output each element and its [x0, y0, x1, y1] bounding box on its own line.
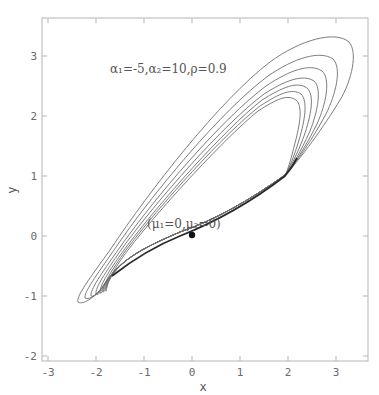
y-tick-labels: -2 -1 0 1 2 3 — [24, 50, 37, 363]
parameters-annotation: α₁=-5,α₂=10,ρ=0.9 — [110, 62, 227, 76]
svg-text:-2: -2 — [89, 366, 102, 379]
contour-level-7 — [106, 97, 300, 291]
contour-level-3 — [91, 68, 327, 297]
contour-lines — [78, 37, 354, 303]
svg-text:1: 1 — [237, 366, 244, 379]
contour-level-6 — [103, 91, 305, 292]
svg-text:1: 1 — [30, 170, 37, 183]
mean-annotation: (μ₁=0,μ₂=0) — [147, 217, 221, 231]
svg-text:3: 3 — [333, 366, 340, 379]
svg-text:0: 0 — [30, 230, 37, 243]
contour-plot: -3 -2 -1 0 1 2 3 -2 -1 0 1 2 3 x y — [0, 0, 379, 395]
mean-point-marker — [189, 232, 195, 238]
svg-text:3: 3 — [30, 50, 37, 63]
svg-text:-2: -2 — [24, 350, 37, 363]
x-tick-labels: -3 -2 -1 0 1 2 3 — [41, 366, 339, 379]
contour-level-4 — [96, 78, 318, 294]
svg-text:2: 2 — [30, 110, 37, 123]
svg-text:-1: -1 — [24, 290, 37, 303]
svg-text:-1: -1 — [137, 366, 150, 379]
svg-text:-3: -3 — [41, 366, 54, 379]
y-axis-label: y — [5, 186, 19, 193]
y-axis-ticks — [42, 56, 368, 356]
svg-text:2: 2 — [285, 366, 292, 379]
contour-level-2 — [85, 55, 337, 298]
svg-text:0: 0 — [189, 366, 196, 379]
x-axis-label: x — [199, 380, 206, 394]
